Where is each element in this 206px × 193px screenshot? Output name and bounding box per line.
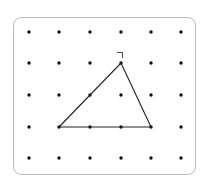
peg-dot (119, 30, 122, 33)
peg-dot (179, 156, 182, 159)
peg-dot (27, 61, 30, 64)
peg-dot (149, 30, 152, 33)
peg-dot (27, 30, 30, 33)
peg-dot (179, 30, 182, 33)
peg-dot (57, 156, 60, 159)
peg-dot (88, 61, 91, 64)
geoboard-frame (14, 18, 196, 175)
peg-dot (57, 61, 60, 64)
peg-dot (179, 61, 182, 64)
peg-dot (27, 156, 30, 159)
peg-dot (179, 93, 182, 96)
peg-dot (88, 30, 91, 33)
peg-dot (149, 61, 152, 64)
peg-dot (119, 156, 122, 159)
peg-dot (27, 125, 30, 128)
peg-dot (88, 156, 91, 159)
peg-dot (149, 93, 152, 96)
peg-dot (119, 93, 122, 96)
peg-dot (179, 125, 182, 128)
geoboard (0, 0, 206, 193)
peg-dot (149, 156, 152, 159)
peg-dot (27, 93, 30, 96)
peg-dot (57, 30, 60, 33)
peg-dot (57, 93, 60, 96)
